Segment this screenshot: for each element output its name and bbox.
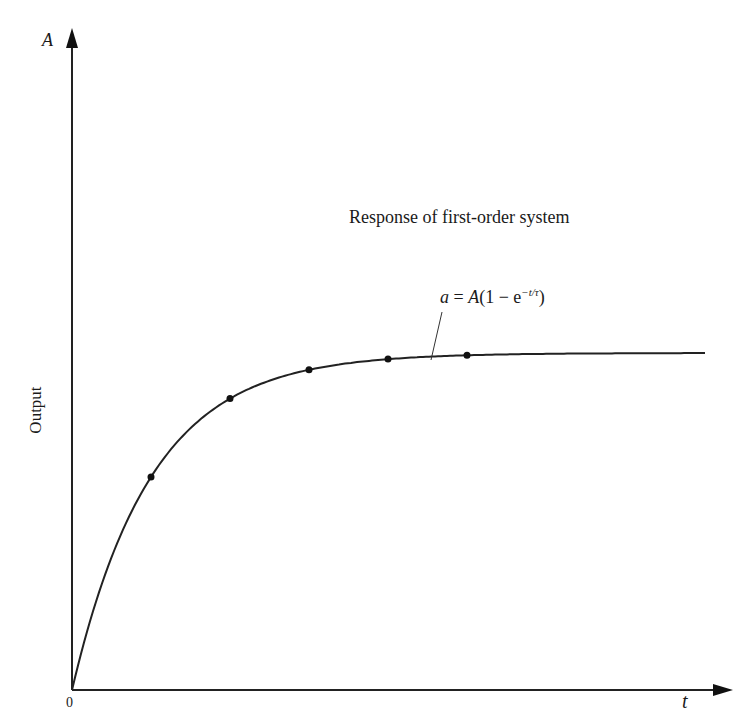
x-axis-label: t (682, 690, 688, 713)
x-axis-arrow-icon (713, 684, 733, 696)
y-axis-top-label: A (42, 30, 53, 51)
y-axis-arrow-icon (66, 28, 78, 48)
data-point (306, 366, 313, 373)
formula-exponent: −t/τ (521, 286, 538, 298)
formula-annotation: a = A(1 − e−t/τ) (440, 286, 545, 308)
data-point (148, 474, 155, 481)
data-point (227, 395, 234, 402)
data-point (385, 356, 392, 363)
marked-points (148, 352, 471, 481)
formula-leader-line (431, 312, 442, 360)
origin-label: 0 (66, 695, 73, 711)
chart-canvas (0, 0, 739, 728)
response-curve (72, 353, 705, 690)
data-point (464, 352, 471, 359)
y-axis-label: Output (26, 370, 46, 450)
chart-title: Response of first-order system (349, 207, 569, 228)
